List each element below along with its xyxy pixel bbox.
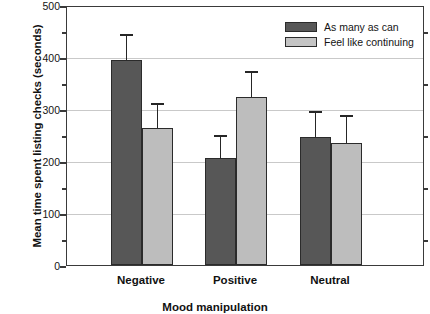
- bar-neutral-as-many-as-can: [300, 137, 331, 265]
- legend-item-as-many-as-can: As many as can: [285, 20, 414, 34]
- error-bar-stem-negative-feel-like-continuing: [157, 103, 159, 128]
- error-bar-cap-negative-as-many-as-can: [120, 34, 133, 36]
- bar-neutral-feel-like-continuing: [331, 143, 362, 265]
- chart-legend: As many as can Feel like continuing: [285, 20, 414, 50]
- y-tick-minor-right-450: [424, 32, 428, 34]
- x-axis-title: Mood manipulation: [0, 301, 430, 313]
- error-bar-cap-negative-feel-like-continuing: [151, 103, 164, 105]
- error-bar-stem-neutral-as-many-as-can: [315, 111, 317, 137]
- legend-label-feel-like-continuing: Feel like continuing: [324, 36, 414, 48]
- error-bar-cap-neutral-feel-like-continuing: [340, 115, 353, 117]
- y-tick-label-200: 200: [26, 156, 60, 168]
- legend-swatch-light-icon: [285, 37, 317, 47]
- legend-swatch-dark-icon: [285, 22, 317, 32]
- y-tick-label-300: 300: [26, 104, 60, 116]
- y-axis-tick-labels: 500 400 300 200 100 0: [26, 0, 60, 314]
- bar-positive-feel-like-continuing: [236, 97, 267, 265]
- x-category-label-positive: Positive: [213, 274, 257, 286]
- y-tick-minor-right-150: [424, 188, 428, 190]
- error-bar-stem-positive-as-many-as-can: [220, 135, 222, 159]
- bar-chart-figure: Mean time spent listing checks (seconds)…: [0, 0, 430, 314]
- legend-label-as-many-as-can: As many as can: [324, 21, 399, 33]
- error-bar-stem-neutral-feel-like-continuing: [346, 115, 348, 143]
- y-tick-label-400: 400: [26, 52, 60, 64]
- error-bar-cap-positive-as-many-as-can: [214, 135, 227, 137]
- y-tick-minor-right-50: [424, 240, 428, 242]
- error-bar-stem-negative-as-many-as-can: [126, 34, 128, 60]
- y-tick-label-500: 500: [26, 0, 60, 12]
- error-bar-stem-positive-feel-like-continuing: [251, 71, 253, 97]
- gridline-400: [67, 58, 423, 59]
- y-tick-minor-right-350: [424, 84, 428, 86]
- plot-area: As many as can Feel like continuing: [66, 6, 424, 266]
- x-category-label-negative: Negative: [117, 274, 165, 286]
- legend-item-feel-like-continuing: Feel like continuing: [285, 35, 414, 49]
- y-tick-label-0: 0: [26, 260, 60, 272]
- y-tick-label-100: 100: [26, 208, 60, 220]
- x-category-label-neutral: Neutral: [310, 274, 350, 286]
- error-bar-cap-positive-feel-like-continuing: [245, 71, 258, 73]
- bar-negative-feel-like-continuing: [142, 128, 173, 265]
- y-tick-major-0: [60, 266, 66, 268]
- bar-negative-as-many-as-can: [111, 60, 142, 265]
- y-tick-minor-right-250: [424, 136, 428, 138]
- error-bar-cap-neutral-as-many-as-can: [309, 111, 322, 113]
- bar-positive-as-many-as-can: [205, 158, 236, 265]
